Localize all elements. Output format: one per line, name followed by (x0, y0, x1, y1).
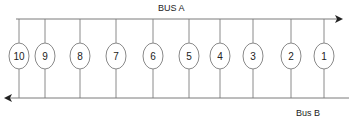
station-node-3: 3 (243, 43, 263, 69)
station-label: 5 (186, 51, 192, 62)
station-label: 7 (113, 51, 119, 62)
bus-a-label: BUS A (158, 3, 185, 13)
station-label: 8 (77, 51, 83, 62)
station-label: 10 (13, 51, 25, 62)
node-taps (19, 19, 324, 98)
station-nodes: 10987654321 (9, 43, 334, 69)
station-label: 4 (217, 51, 223, 62)
station-node-10: 10 (9, 43, 29, 69)
station-label: 3 (250, 51, 256, 62)
station-node-5: 5 (179, 43, 199, 69)
bus-b-label: Bus B (296, 108, 320, 118)
station-node-4: 4 (210, 43, 230, 69)
station-node-1: 1 (314, 43, 334, 69)
dual-bus-diagram: BUS A Bus B 10987654321 (0, 0, 349, 124)
station-node-2: 2 (281, 43, 301, 69)
station-label: 2 (288, 51, 294, 62)
station-node-6: 6 (143, 43, 163, 69)
station-label: 6 (150, 51, 156, 62)
station-node-9: 9 (35, 43, 55, 69)
station-label: 1 (321, 51, 327, 62)
station-node-7: 7 (106, 43, 126, 69)
station-node-8: 8 (70, 43, 90, 69)
station-label: 9 (42, 51, 48, 62)
